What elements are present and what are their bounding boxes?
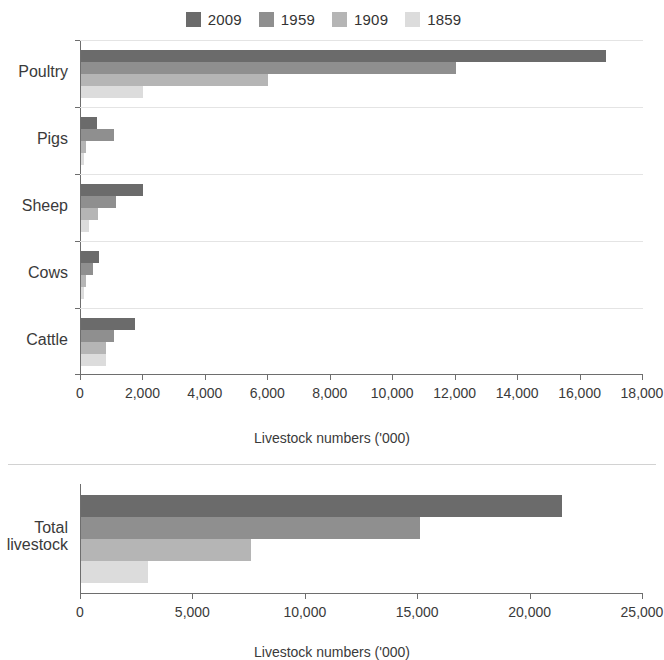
legend-swatch-icon-1909 [332, 12, 347, 27]
chart-panel-total-livestock: 05,00010,00015,00020,00025,000Totallives… [0, 474, 664, 656]
bar-cattle-1859 [81, 354, 106, 366]
bar-total-livestock-1909 [81, 539, 251, 561]
x-tick-label: 8,000 [312, 385, 347, 401]
y-tick-mark [75, 308, 80, 309]
x-tick-mark [392, 375, 393, 380]
legend-label-1959: 1959 [281, 12, 315, 27]
bar-pigs-1909 [81, 141, 86, 153]
category-label-line2: livestock [7, 537, 68, 554]
gridline [80, 241, 643, 242]
category-label-total-livestock: Totallivestock [7, 520, 68, 554]
legend-swatch-icon-2009 [186, 12, 201, 27]
x-tick-mark [530, 594, 531, 599]
x-tick-mark [455, 375, 456, 380]
gridline [80, 40, 643, 41]
y-tick-mark [75, 40, 80, 41]
bar-group-total-livestock: Totallivestock [80, 484, 643, 594]
category-label-sheep: Sheep [22, 198, 68, 215]
bar-total-livestock-1959 [81, 517, 420, 539]
legend-swatch-icon-1859 [405, 12, 420, 27]
x-tick-mark [192, 594, 193, 599]
plot-area-top: 02,0004,0006,0008,00010,00012,00014,0001… [80, 40, 643, 375]
x-tick-mark [305, 594, 306, 599]
chart-panel-livestock-by-type: 02,0004,0006,0008,00010,00012,00014,0001… [0, 34, 664, 444]
x-tick-label: 10,000 [371, 385, 414, 401]
bar-cows-1959 [81, 263, 93, 275]
bar-pigs-1959 [81, 129, 114, 141]
legend-label-1859: 1859 [427, 12, 461, 27]
gridline [80, 308, 643, 309]
legend-label-1909: 1909 [354, 12, 388, 27]
x-tick-label: 14,000 [496, 385, 539, 401]
bar-cows-2009 [81, 251, 99, 263]
bar-sheep-1909 [81, 208, 98, 220]
x-tick-label: 6,000 [250, 385, 285, 401]
x-tick-mark [580, 375, 581, 380]
x-tick-label: 18,000 [621, 385, 664, 401]
x-tick-label: 2,000 [125, 385, 160, 401]
x-tick-mark [517, 375, 518, 380]
chart-legend: 2009195919091859 [0, 6, 664, 32]
legend-item-2009: 2009 [186, 12, 242, 27]
legend-item-1959: 1959 [259, 12, 315, 27]
bar-group-pigs: Pigs [80, 107, 643, 174]
bar-pigs-2009 [81, 117, 97, 129]
category-label-poultry: Poultry [18, 64, 68, 81]
y-tick-mark [75, 174, 80, 175]
legend-item-1909: 1909 [332, 12, 388, 27]
bar-cattle-1909 [81, 342, 106, 354]
bar-cattle-2009 [81, 318, 135, 330]
plot-area-bottom: 05,00010,00015,00020,00025,000Totallives… [80, 484, 643, 594]
y-tick-mark [75, 241, 80, 242]
bar-total-livestock-1859 [81, 561, 148, 583]
bar-cows-1859 [81, 287, 84, 299]
bar-poultry-1959 [81, 62, 456, 74]
category-label-line1: Total [7, 520, 68, 537]
bar-group-poultry: Poultry [80, 40, 643, 107]
x-tick-label: 12,000 [433, 385, 476, 401]
y-tick-mark [75, 374, 80, 375]
legend-item-1859: 1859 [405, 12, 461, 27]
x-tick-label: 10,000 [283, 604, 326, 620]
x-tick-mark [642, 375, 643, 380]
x-tick-mark [80, 594, 81, 599]
x-tick-label: 15,000 [396, 604, 439, 620]
bar-group-cows: Cows [80, 241, 643, 308]
bar-poultry-1909 [81, 74, 268, 86]
x-tick-label: 5,000 [175, 604, 210, 620]
category-label-pigs: Pigs [37, 131, 68, 148]
x-tick-label: 4,000 [187, 385, 222, 401]
x-tick-mark [330, 375, 331, 380]
bar-total-livestock-2009 [81, 495, 562, 517]
x-tick-label: 16,000 [558, 385, 601, 401]
x-tick-mark [80, 375, 81, 380]
bar-sheep-2009 [81, 184, 143, 196]
bar-group-cattle: Cattle [80, 308, 643, 375]
legend-swatch-icon-1959 [259, 12, 274, 27]
legend-label-2009: 2009 [208, 12, 242, 27]
y-tick-mark [75, 107, 80, 108]
x-tick-mark [642, 594, 643, 599]
x-tick-mark [205, 375, 206, 380]
x-tick-mark [267, 375, 268, 380]
x-axis-title-bottom: Livestock numbers ('000) [0, 644, 664, 660]
bar-poultry-1859 [81, 86, 143, 98]
bar-sheep-1859 [81, 220, 89, 232]
bar-group-sheep: Sheep [80, 174, 643, 241]
x-tick-label: 25,000 [621, 604, 664, 620]
x-tick-label: 20,000 [508, 604, 551, 620]
bar-poultry-2009 [81, 50, 606, 62]
category-label-cows: Cows [28, 265, 68, 282]
bar-cattle-1959 [81, 330, 114, 342]
x-tick-label: 0 [76, 385, 84, 401]
panel-divider [8, 464, 656, 465]
bar-cows-1909 [81, 275, 86, 287]
x-tick-label: 0 [76, 604, 84, 620]
x-tick-mark [417, 594, 418, 599]
x-tick-mark [142, 375, 143, 380]
category-label-cattle: Cattle [26, 332, 68, 349]
x-axis-title-top: Livestock numbers ('000) [0, 430, 664, 446]
bar-pigs-1859 [81, 153, 84, 165]
gridline [80, 107, 643, 108]
gridline [80, 174, 643, 175]
